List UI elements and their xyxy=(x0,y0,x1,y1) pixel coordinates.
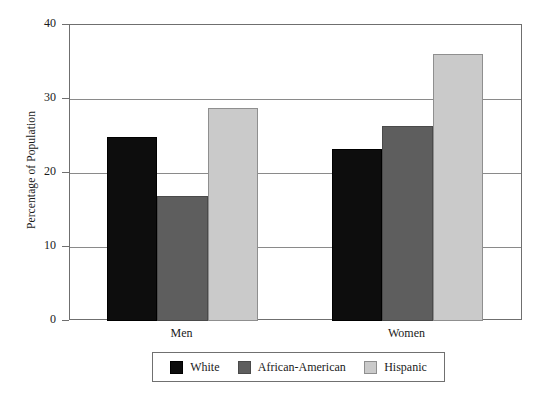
x-tick-label-women: Women xyxy=(347,326,467,341)
bar-women-white xyxy=(332,149,382,321)
y-tick-mark xyxy=(62,24,69,25)
bar-men-african-american xyxy=(157,196,207,321)
legend-label: African-American xyxy=(258,360,346,375)
legend-item-african-american[interactable]: African-American xyxy=(238,360,346,375)
x-tick-label-men: Men xyxy=(122,326,242,341)
legend-swatch-icon xyxy=(364,361,377,374)
bar-men-hispanic xyxy=(208,108,258,321)
legend-swatch-icon xyxy=(238,361,251,374)
bar-women-hispanic xyxy=(433,54,483,321)
chart-legend: WhiteAfrican-AmericanHispanic xyxy=(152,352,445,382)
bar-women-african-american xyxy=(382,126,432,321)
y-tick-mark xyxy=(62,320,69,321)
y-tick-mark xyxy=(62,246,69,247)
bar-chart-figure: Percentage of Population 010203040 MenWo… xyxy=(0,0,544,402)
bar-men-white xyxy=(107,137,157,321)
y-tick-label: 30 xyxy=(16,90,56,105)
legend-label: White xyxy=(190,360,219,375)
y-tick-mark xyxy=(62,98,69,99)
y-tick-label: 40 xyxy=(16,16,56,31)
y-tick-mark xyxy=(62,172,69,173)
y-tick-label: 10 xyxy=(16,238,56,253)
y-tick-label: 0 xyxy=(16,312,56,327)
legend-item-white[interactable]: White xyxy=(170,360,219,375)
legend-item-hispanic[interactable]: Hispanic xyxy=(364,360,427,375)
legend-label: Hispanic xyxy=(384,360,427,375)
plot-area xyxy=(69,24,522,320)
legend-swatch-icon xyxy=(170,361,183,374)
y-tick-label: 20 xyxy=(16,164,56,179)
